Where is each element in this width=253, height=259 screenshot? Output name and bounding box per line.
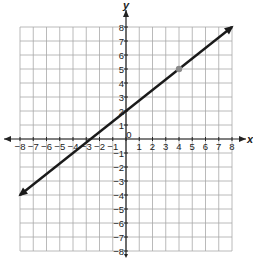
- highlighted-points: [176, 66, 182, 72]
- y-tick-label: −4: [113, 190, 124, 201]
- x-tick-label: 7: [216, 141, 221, 152]
- x-tick-label: 4: [176, 141, 181, 152]
- y-tick-label: 7: [119, 36, 124, 47]
- y-tick-label: −1: [113, 148, 124, 159]
- x-tick-label: 2: [150, 141, 155, 152]
- x-tick-label: −8: [15, 141, 26, 152]
- highlighted-point: [176, 66, 182, 72]
- y-tick-label: 3: [119, 92, 124, 103]
- y-axis-label: y: [122, 0, 130, 11]
- x-axis-arrow-right-icon: [239, 136, 246, 142]
- y-tick-label: 6: [119, 50, 124, 61]
- y-tick-label: 5: [119, 64, 124, 75]
- y-tick-label: −8: [113, 246, 124, 257]
- x-axis-arrow-left-icon: [4, 136, 11, 142]
- x-tick-label: 0: [126, 129, 131, 140]
- x-tick-label: 3: [163, 141, 168, 152]
- y-axis-arrow-up-icon: [123, 10, 129, 17]
- coordinate-plane: −8−7−6−5−4−3−2−1012345678−8−7−6−5−4−3−2−…: [0, 0, 253, 259]
- y-tick-label: −7: [113, 232, 124, 243]
- axes: [4, 10, 246, 258]
- y-axis-arrow-down-icon: [124, 254, 128, 258]
- x-tick-label: 1: [137, 141, 142, 152]
- y-tick-label: 4: [119, 78, 124, 89]
- y-tick-label: −3: [113, 176, 124, 187]
- x-tick-label: 8: [229, 141, 234, 152]
- x-axis-label: x: [246, 133, 253, 145]
- y-tick-label: −2: [113, 162, 124, 173]
- x-tick-label: −5: [54, 141, 65, 152]
- y-tick-label: −6: [113, 218, 124, 229]
- x-tick-label: 5: [190, 141, 195, 152]
- y-tick-label: −5: [113, 204, 124, 215]
- x-tick-label: −7: [28, 141, 39, 152]
- y-tick-label: 8: [119, 22, 124, 33]
- x-tick-label: −2: [94, 141, 105, 152]
- x-tick-label: −6: [41, 141, 52, 152]
- x-tick-label: 6: [203, 141, 208, 152]
- y-tick-label: 1: [119, 120, 124, 131]
